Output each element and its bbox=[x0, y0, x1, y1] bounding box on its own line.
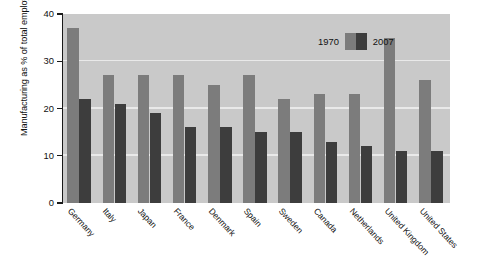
bar-spain-2007 bbox=[255, 132, 267, 203]
x-label-italy: Italy bbox=[101, 206, 119, 224]
bar-italy-1970 bbox=[103, 75, 115, 203]
bar-canada-2007 bbox=[326, 142, 338, 203]
bar-netherlands-2007 bbox=[361, 146, 373, 203]
x-label-france: France bbox=[171, 206, 196, 232]
legend-swatch-2007 bbox=[356, 33, 367, 50]
y-tick-label-0: 0 bbox=[24, 197, 54, 208]
plot-area: 1970 2007 bbox=[63, 14, 450, 203]
x-label-canada: Canada bbox=[312, 206, 340, 235]
bar-united-states-1970 bbox=[419, 80, 431, 203]
bar-united-states-2007 bbox=[431, 151, 443, 203]
bar-italy-2007 bbox=[115, 104, 127, 203]
bar-japan-2007 bbox=[150, 113, 162, 203]
legend-label-2007: 2007 bbox=[373, 36, 394, 47]
bar-sweden-1970 bbox=[278, 99, 290, 203]
bar-united-kingdom-2007 bbox=[396, 151, 408, 203]
y-axis-title: Manufacturing as % of total employment bbox=[19, 0, 37, 146]
legend-swatch-1970 bbox=[345, 33, 356, 50]
x-label-sweden: Sweden bbox=[277, 206, 305, 235]
y-tick-label-30: 30 bbox=[24, 55, 54, 66]
y-tick-label-20: 20 bbox=[24, 103, 54, 114]
bar-chart-figure: Manufacturing as % of total employment 0… bbox=[0, 0, 479, 272]
bar-germany-1970 bbox=[67, 28, 79, 203]
y-tick-label-40: 40 bbox=[24, 8, 54, 19]
x-label-spain: Spain bbox=[242, 206, 264, 229]
bar-spain-1970 bbox=[243, 75, 255, 203]
x-label-germany: Germany bbox=[66, 206, 97, 238]
bar-japan-1970 bbox=[138, 75, 150, 203]
x-label-japan: Japan bbox=[136, 206, 159, 230]
bar-united-kingdom-1970 bbox=[384, 38, 396, 203]
bar-germany-2007 bbox=[79, 99, 91, 203]
bar-canada-1970 bbox=[314, 94, 326, 203]
bar-sweden-2007 bbox=[290, 132, 302, 203]
bar-netherlands-1970 bbox=[349, 94, 361, 203]
bar-denmark-2007 bbox=[220, 127, 232, 203]
x-label-netherlands: Netherlands bbox=[347, 206, 386, 246]
x-label-denmark: Denmark bbox=[206, 206, 237, 238]
bar-france-1970 bbox=[173, 75, 185, 203]
chart-legend: 1970 2007 bbox=[318, 32, 394, 50]
bar-france-2007 bbox=[185, 127, 197, 203]
y-tick-label-10: 10 bbox=[24, 150, 54, 161]
legend-label-1970: 1970 bbox=[318, 36, 339, 47]
bar-denmark-1970 bbox=[208, 85, 220, 203]
